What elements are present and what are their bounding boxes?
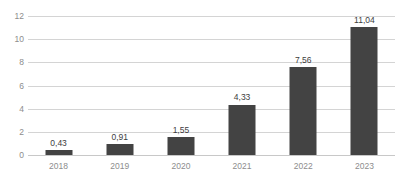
- bar[interactable]: [351, 27, 378, 155]
- y-axis-tick-label: 2: [2, 128, 24, 137]
- bar-value-label: 7,56: [295, 56, 312, 65]
- bar[interactable]: [45, 150, 72, 155]
- plot-area: 0,430,911,554,337,5611,04: [28, 16, 395, 155]
- x-axis-tick-label: 2021: [233, 162, 252, 171]
- y-axis-tick-label: 12: [2, 12, 24, 21]
- bar-group: 11,04: [334, 16, 395, 155]
- bar-value-label: 0,91: [111, 133, 128, 142]
- x-axis: 201820192020202120222023: [28, 162, 395, 176]
- y-axis-tick-label: 10: [2, 35, 24, 44]
- bar-group: 0,43: [28, 16, 89, 155]
- bar-group: 0,91: [89, 16, 150, 155]
- bar[interactable]: [229, 105, 256, 155]
- bar-value-label: 0,43: [50, 139, 67, 148]
- x-axis-tick-label: 2018: [49, 162, 68, 171]
- bar-value-label: 11,04: [354, 16, 375, 25]
- y-axis: 121086420: [0, 16, 24, 155]
- y-axis-tick-label: 8: [2, 58, 24, 67]
- bar-group: 1,55: [150, 16, 211, 155]
- bar-chart: 121086420 0,430,911,554,337,5611,04 2018…: [0, 0, 410, 187]
- x-axis-tick-label: 2020: [171, 162, 190, 171]
- bar-group: 7,56: [273, 16, 334, 155]
- x-axis-tick-label: 2022: [294, 162, 313, 171]
- bar-group: 4,33: [212, 16, 273, 155]
- bar[interactable]: [106, 144, 133, 155]
- gridline: [28, 155, 395, 156]
- bar-value-label: 1,55: [173, 126, 190, 135]
- y-axis-tick-label: 4: [2, 104, 24, 113]
- y-axis-tick-label: 6: [2, 81, 24, 90]
- x-axis-tick-label: 2023: [355, 162, 374, 171]
- y-axis-tick-label: 0: [2, 151, 24, 160]
- bar[interactable]: [290, 67, 317, 155]
- bar[interactable]: [167, 137, 194, 155]
- x-axis-tick-label: 2019: [110, 162, 129, 171]
- bar-value-label: 4,33: [234, 93, 251, 102]
